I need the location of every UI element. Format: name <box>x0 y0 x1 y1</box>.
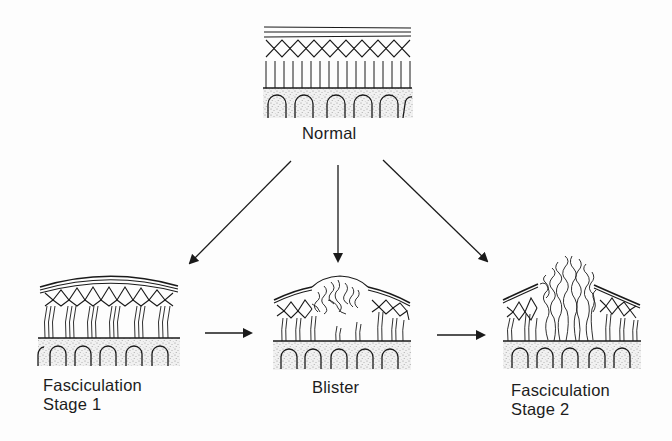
arrow-normal-to-stage1 <box>190 161 291 263</box>
label-fasciculation-stage1: Fasciculation Stage 1 <box>43 376 142 414</box>
blister-figure <box>273 276 411 370</box>
label-stage2-line1: Fasciculation <box>511 381 610 400</box>
label-blister-text: Blister <box>312 378 359 397</box>
label-stage2-line2: Stage 2 <box>511 400 610 419</box>
label-normal-text: Normal <box>302 124 356 143</box>
fasciculation-stage2-figure <box>503 256 641 369</box>
fasciculation-diagram: Normal Fasciculation Stage 1 Blister Fas… <box>0 0 672 441</box>
normal-tissue-figure <box>263 27 413 118</box>
fasciculation-stage1-figure <box>38 276 180 366</box>
label-stage1-line2: Stage 1 <box>43 395 142 414</box>
arrow-normal-to-stage2 <box>383 160 487 261</box>
label-normal: Normal <box>302 124 356 143</box>
label-stage1-line1: Fasciculation <box>43 376 142 395</box>
label-blister: Blister <box>312 378 359 397</box>
label-fasciculation-stage2: Fasciculation Stage 2 <box>511 381 610 419</box>
